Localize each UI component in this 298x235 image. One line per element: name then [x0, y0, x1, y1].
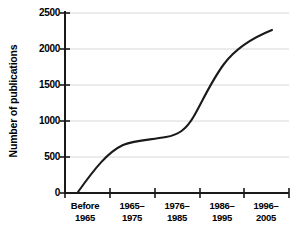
x-axis: [64, 188, 289, 198]
line-chart: Number of publications 2500 2000 1500 10…: [0, 0, 298, 235]
y-axis: [60, 11, 70, 193]
data-line-number-of-publications: [78, 30, 272, 192]
gridlines: [65, 13, 289, 157]
x-tick-label-1996-2005: 1996– 2005: [238, 200, 294, 223]
